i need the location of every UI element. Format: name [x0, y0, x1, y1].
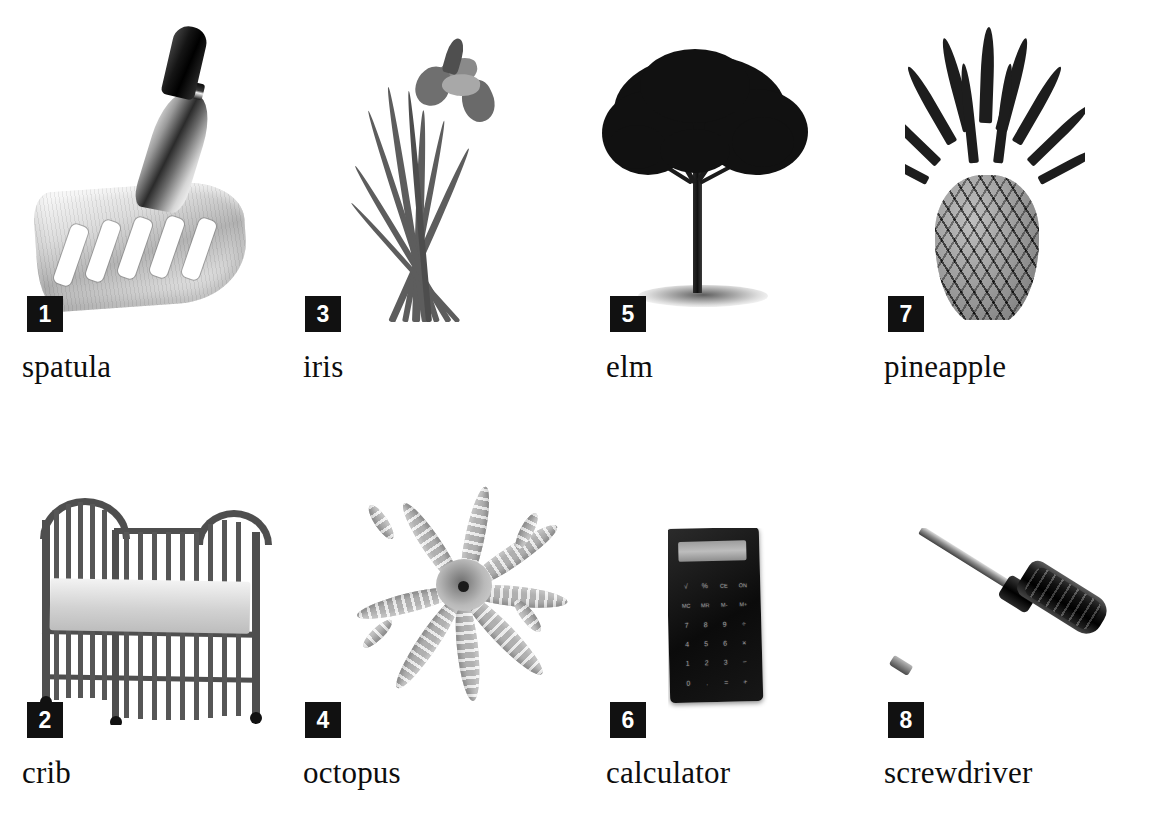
calculator-key[interactable]: = — [717, 672, 736, 692]
calculator-key[interactable]: MR — [695, 595, 714, 615]
calculator-key[interactable]: % — [695, 576, 714, 596]
screwdriver-assembly — [878, 528, 1128, 708]
item-number-badge: 7 — [888, 296, 924, 332]
iris-photo — [350, 22, 580, 322]
item-number-badge: 5 — [610, 296, 646, 332]
item-octopus: 4 octopus — [280, 410, 580, 817]
item-number-badge: 6 — [610, 702, 646, 738]
octopus-mouth — [458, 581, 469, 592]
crib-mattress — [50, 578, 251, 633]
item-label: octopus — [303, 755, 401, 791]
item-number-badge: 8 — [888, 702, 924, 738]
crib-post-left — [42, 520, 50, 698]
calculator-key[interactable]: 9 — [715, 614, 734, 634]
calculator-key[interactable]: 0 — [679, 673, 698, 693]
item-number-badge: 4 — [305, 702, 341, 738]
calculator-key[interactable]: 6 — [715, 633, 734, 653]
item-label: calculator — [606, 755, 730, 791]
screwdriver-handle — [1013, 557, 1112, 640]
item-number-badge: 3 — [305, 296, 341, 332]
calculator-key[interactable]: 5 — [697, 634, 716, 654]
calculator-key[interactable]: 3 — [716, 653, 735, 673]
calculator-key[interactable]: × — [734, 633, 753, 653]
item-screwdriver: 8 screwdriver — [880, 410, 1149, 817]
picture-dictionary-page: 1 spatula 3 iris — [0, 0, 1149, 817]
pineapple-crown-leaf — [979, 27, 995, 123]
item-label: pineapple — [884, 349, 1006, 385]
item-elm: 5 elm — [580, 0, 880, 400]
item-iris: 3 iris — [280, 0, 580, 400]
calculator-key[interactable]: √ — [676, 576, 695, 596]
calculator-key[interactable]: 7 — [677, 615, 696, 635]
crib-post-right — [252, 532, 260, 718]
pineapple-body — [935, 175, 1039, 320]
item-pineapple: 7 pineapple — [880, 0, 1149, 400]
elm-canopy — [640, 49, 750, 123]
pineapple-photo — [905, 25, 1085, 320]
elm-canopy — [660, 129, 730, 173]
item-label: spatula — [22, 349, 111, 385]
calculator-key[interactable]: 8 — [696, 615, 715, 635]
elm-ground-shadow — [638, 285, 768, 307]
calculator-keypad: √ % CE ON MC MR M- M+ 7 8 9 ÷ 4 5 6 × 1 — [676, 575, 755, 693]
calculator-case: √ % CE ON MC MR M- M+ 7 8 9 ÷ 4 5 6 × 1 — [668, 528, 763, 703]
calculator-key[interactable]: − — [735, 652, 754, 672]
calculator-key[interactable]: + — [736, 672, 755, 692]
crib-photo — [24, 480, 274, 725]
item-calculator: √ % CE ON MC MR M- M+ 7 8 9 ÷ 4 5 6 × 1 — [580, 410, 880, 817]
calculator-key[interactable]: 2 — [697, 653, 716, 673]
screwdriver-photo — [878, 528, 1128, 713]
calculator-key[interactable]: CE — [714, 576, 733, 596]
item-number-badge: 1 — [27, 296, 63, 332]
calculator-photo: √ % CE ON MC MR M- M+ 7 8 9 ÷ 4 5 6 × 1 — [668, 528, 778, 713]
octopus-tentacle-tip — [365, 502, 398, 542]
calculator-key[interactable]: 1 — [678, 654, 697, 674]
item-label: crib — [22, 755, 71, 791]
crib-caster — [110, 716, 122, 725]
crib-caster — [250, 712, 262, 724]
calculator-key[interactable]: MC — [676, 596, 695, 616]
elm-canopy — [608, 125, 666, 169]
octopus-photo — [340, 455, 600, 725]
calculator-key[interactable]: M+ — [733, 594, 752, 614]
screwdriver-tip — [889, 655, 913, 676]
elm-tree-photo — [600, 45, 880, 320]
item-spatula: 1 spatula — [0, 0, 280, 400]
elm-canopy — [732, 117, 794, 167]
item-label: elm — [606, 349, 653, 385]
item-crib: 2 crib — [0, 410, 280, 817]
calculator-key[interactable]: ÷ — [734, 614, 753, 634]
octopus-tentacle-tip — [360, 616, 396, 651]
calculator-display — [678, 540, 747, 562]
item-label: iris — [303, 349, 343, 385]
item-number-badge: 2 — [27, 702, 63, 738]
calculator-key[interactable]: ON — [733, 575, 752, 595]
item-label: screwdriver — [884, 755, 1033, 791]
spatula-photo — [18, 18, 268, 318]
calculator-key[interactable]: 4 — [678, 634, 697, 654]
calculator-key[interactable]: M- — [714, 595, 733, 615]
calculator-key[interactable]: . — [698, 673, 717, 693]
